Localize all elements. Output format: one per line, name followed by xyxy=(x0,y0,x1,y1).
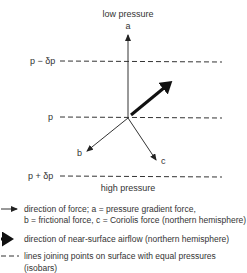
isobar-p-plus-dp xyxy=(60,176,222,177)
high-pressure-label: high pressure xyxy=(101,183,156,193)
force-c-label: c xyxy=(161,156,166,166)
isobar-p xyxy=(60,117,222,118)
isobar-p-label: p xyxy=(48,112,53,122)
legend-isobar-line2: (isobars) xyxy=(24,263,57,273)
force-a-label: a xyxy=(125,21,130,31)
force-b-arrow xyxy=(87,118,128,151)
low-pressure-label: low pressure xyxy=(102,9,153,19)
isobar-p-minus-dp xyxy=(60,61,222,62)
isobar-p-plus-dp-label: p + δp xyxy=(28,171,53,181)
isobar-p-minus-dp-label: p − δp xyxy=(30,56,55,66)
legend-isobar-line1: lines joining points on surface with equ… xyxy=(24,251,216,261)
legend-force-line1: direction of force; a = pressure gradien… xyxy=(24,204,196,214)
legend-force-line2: b = frictional force, c = Coriolis force… xyxy=(24,215,246,225)
force-b-label: b xyxy=(77,148,82,158)
force-c-arrow xyxy=(128,118,156,160)
airflow-arrow xyxy=(131,83,170,115)
legend-airflow-text: direction of near-surface airflow (north… xyxy=(24,234,229,244)
